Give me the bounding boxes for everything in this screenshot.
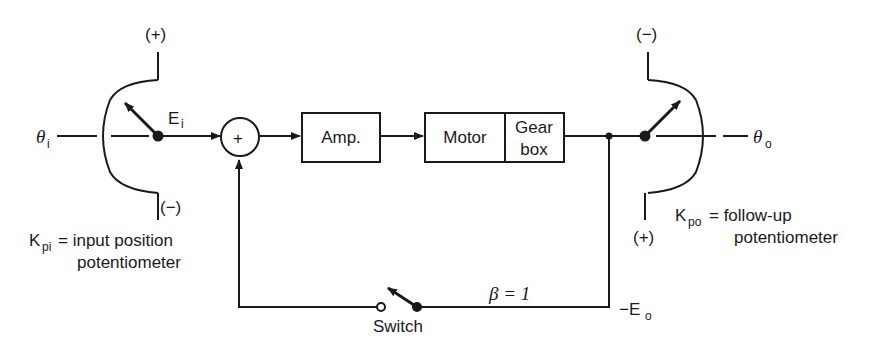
svg-text:o: o: [645, 309, 652, 323]
svg-text:o: o: [765, 137, 772, 151]
amp-block: Amp.: [302, 113, 380, 162]
svg-text:E: E: [168, 109, 179, 128]
feedback-line-left: [239, 160, 377, 307]
svg-text:pi: pi: [42, 240, 51, 254]
summing-junction: +: [221, 118, 259, 156]
svg-text:po: po: [688, 215, 702, 229]
svg-text:i: i: [181, 117, 184, 131]
gearbox-block: Gear box: [505, 113, 564, 162]
input-voltage-label: E i: [168, 109, 184, 131]
svg-text:potentiometer: potentiometer: [77, 253, 181, 272]
svg-text:−E: −E: [619, 300, 640, 319]
svg-text:Motor: Motor: [443, 128, 487, 147]
svg-text:Gear: Gear: [515, 118, 553, 137]
svg-text:potentiometer: potentiometer: [734, 228, 838, 247]
followup-wiper-pivot: [640, 131, 651, 142]
input-pot-bottom-polarity: (−): [160, 198, 181, 217]
input-pot-top-polarity: (+): [145, 25, 166, 44]
svg-text:= input position: = input position: [58, 231, 173, 250]
followup-pot-top-polarity: (−): [636, 25, 657, 44]
svg-text:θ: θ: [36, 126, 45, 147]
svg-text:K: K: [29, 231, 41, 250]
switch-contact-open: [377, 303, 385, 311]
svg-text:= follow-up: = follow-up: [709, 206, 792, 225]
svg-text:+: +: [233, 129, 243, 148]
input-wiper-arrow: [125, 103, 158, 136]
svg-text:Amp.: Amp.: [321, 128, 361, 147]
input-wiper-pivot: [153, 131, 164, 142]
feedback-gain-label: β = 1: [488, 283, 530, 304]
input-pot-description: K pi = input position potentiometer: [29, 231, 181, 272]
svg-text:i: i: [47, 137, 50, 151]
output-theta-label: θ o: [753, 126, 772, 151]
svg-text:K: K: [675, 206, 687, 225]
switch-arm-icon: [388, 288, 417, 307]
input-theta-label: θ i: [36, 126, 50, 151]
followup-pot-bottom-polarity: (+): [633, 228, 654, 247]
svg-text:θ: θ: [753, 126, 762, 147]
followup-wiper-arrow: [645, 101, 680, 136]
svg-text:box: box: [520, 140, 548, 159]
motor-block: Motor: [425, 113, 505, 162]
followup-pot-description: K po = follow-up potentiometer: [675, 206, 838, 247]
feedback-voltage-label: −E o: [619, 300, 652, 323]
servo-block-diagram: θ i (+) (−) E i + Amp. Motor: [0, 0, 885, 355]
switch-label: Switch: [373, 317, 423, 336]
feedback-switch[interactable]: [377, 288, 422, 312]
